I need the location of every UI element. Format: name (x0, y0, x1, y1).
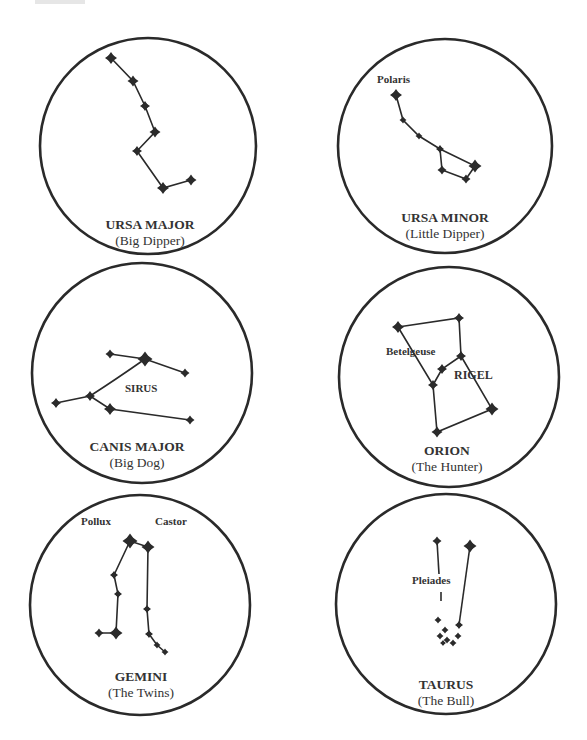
star-core (464, 177, 469, 182)
constellation-canis-major: SIRUS CANIS MAJOR (Big Dog) (32, 263, 252, 483)
star-core (441, 641, 444, 644)
star-core (436, 618, 440, 622)
constellation-gemini: Pollux Castor GEMINI (The Twins) (30, 495, 250, 715)
star-core (107, 406, 114, 413)
constellation-name: CANIS MAJOR (90, 439, 185, 454)
star-core (87, 393, 93, 399)
star-core (126, 537, 134, 545)
star-core (116, 592, 120, 596)
star-core (439, 366, 445, 372)
constellation-common-name: (The Hunter) (412, 459, 483, 474)
star-core (108, 55, 115, 62)
star-label-sirus: SIRUS (125, 382, 157, 394)
constellation-name: URSA MINOR (401, 210, 489, 225)
constellation-lines (90, 396, 190, 420)
star-core (155, 643, 159, 647)
star-core (451, 641, 455, 645)
constellation-ursa-major: URSA MAJOR (Big Dipper) (40, 38, 256, 254)
constellation-name: ORION (424, 443, 470, 458)
star-core (112, 573, 116, 577)
constellation-lines (396, 95, 475, 179)
star-core (53, 400, 59, 406)
star-core (488, 405, 495, 412)
constellation-lines (56, 359, 145, 403)
star-core (434, 429, 440, 435)
star-core (395, 324, 402, 331)
star-core (160, 185, 167, 192)
star-core (456, 634, 460, 638)
header-fragment (35, 0, 85, 4)
star-core (134, 148, 140, 154)
star-core (147, 632, 151, 636)
star-core (445, 638, 449, 642)
constellation-name: URSA MAJOR (106, 217, 195, 232)
star-core (188, 177, 194, 183)
constellation-name: GEMINI (115, 669, 168, 684)
star-core (417, 134, 421, 138)
constellation-common-name: (The Bull) (418, 693, 475, 708)
star-core (145, 607, 149, 611)
star-core (430, 382, 436, 388)
constellation-common-name: (Big Dog) (109, 455, 164, 470)
star-label-pleiades: Pleiades (412, 574, 451, 586)
star-core (163, 650, 167, 654)
star-core (188, 418, 193, 423)
star-core (401, 118, 405, 122)
star-core (142, 103, 148, 109)
constellation-common-name: (Big Dipper) (115, 233, 184, 248)
star-core (141, 355, 149, 363)
star-core (471, 162, 478, 169)
star-label-betelgeuse: Betelgeuse (386, 345, 436, 357)
star-core (108, 352, 113, 357)
constellation-orion: Betelgeuse RIGEL ORION (The Hunter) (339, 267, 559, 487)
star-core (130, 78, 136, 84)
star-label-pollux: Pollux (81, 515, 111, 527)
star-core (438, 147, 442, 151)
constellation-common-name: (The Twins) (108, 685, 174, 700)
star-label-polaris: Polaris (377, 73, 411, 85)
star-core (457, 623, 461, 627)
constellation-chart: URSA MAJOR (Big Dipper) Polaris URSA MIN… (0, 0, 587, 740)
star-label-rigel: RIGEL (454, 368, 493, 382)
star-core (440, 168, 445, 173)
constellation-name: TAURUS (419, 677, 474, 692)
star-core (112, 629, 119, 636)
star-core (443, 628, 447, 632)
star-core (393, 92, 400, 99)
star-core (466, 542, 473, 549)
star-core (438, 634, 442, 638)
star-core (435, 539, 440, 544)
star-core (144, 543, 151, 550)
constellation-taurus: Pleiades TAURUS (The Bull) (336, 494, 556, 714)
star-core (152, 129, 158, 135)
star-core (458, 353, 464, 359)
star-core (183, 371, 188, 376)
constellation-common-name: (Little Dipper) (405, 226, 484, 241)
constellation-lines (99, 541, 130, 633)
star-core (456, 315, 462, 321)
star-core (97, 631, 102, 636)
constellation-lines (111, 58, 191, 188)
constellation-ursa-minor: Polaris URSA MINOR (Little Dipper) (338, 39, 552, 253)
constellation-lines (459, 546, 470, 625)
star-label-castor: Castor (155, 515, 187, 527)
constellation-lines (437, 541, 439, 574)
